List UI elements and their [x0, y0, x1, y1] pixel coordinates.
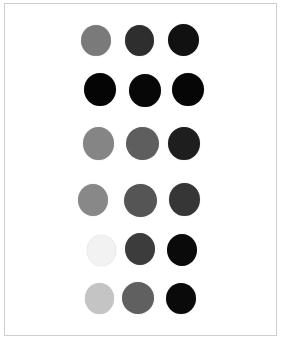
dot-r3-c1 [83, 127, 114, 160]
dot-r2-c3 [172, 73, 204, 106]
dot-r5-c1 [87, 235, 116, 266]
dot-r1-c3 [168, 24, 199, 56]
dot-r4-c2 [124, 184, 157, 217]
dot-r4-c1 [78, 184, 108, 216]
dot-r5-c3 [167, 234, 197, 266]
dot-r2-c1 [84, 73, 116, 106]
dot-r2-c2 [129, 74, 161, 107]
dot-r3-c3 [168, 127, 200, 160]
dot-r1-c1 [81, 25, 111, 56]
dot-r3-c2 [126, 127, 159, 160]
dot-r4-c3 [169, 183, 200, 216]
dot-r5-c2 [125, 233, 155, 265]
dot-r6-c3 [166, 283, 196, 314]
dot-r1-c2 [125, 25, 154, 56]
dot-r6-c1 [85, 283, 114, 314]
dot-r6-c2 [122, 282, 154, 314]
